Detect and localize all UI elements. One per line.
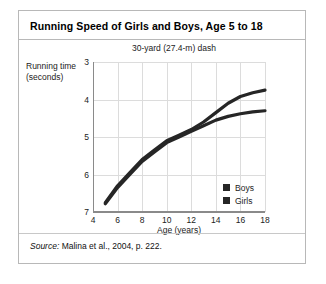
x-tick-label: 4: [91, 215, 96, 225]
legend-swatch-boys: [223, 184, 230, 191]
source-label: Source:: [30, 241, 59, 251]
source-divider: [19, 233, 305, 234]
legend-item-girls: Girls: [223, 194, 254, 207]
legend-label-boys: Boys: [235, 183, 254, 193]
x-tick-label: 12: [187, 215, 196, 225]
y-tick-label: 3: [84, 57, 89, 67]
x-tick-label: 10: [162, 215, 171, 225]
y-tick-label: 7: [84, 207, 89, 217]
y-tick-label: 5: [84, 132, 89, 142]
chart-legend: Boys Girls: [223, 181, 254, 207]
gridline-horizontal: [93, 212, 265, 213]
source-note: Source: Malina et al., 2004, p. 222.: [30, 241, 162, 251]
y-tick-label: 4: [84, 95, 89, 105]
y-axis-label-line2: (seconds): [26, 72, 63, 82]
legend-item-boys: Boys: [223, 181, 254, 194]
gridline-vertical: [265, 62, 266, 212]
chart-subtitle: 30-yard (27.4-m) dash: [19, 43, 305, 53]
x-tick-label: 6: [115, 215, 120, 225]
x-tick-label: 14: [211, 215, 220, 225]
x-tick-label: 18: [260, 215, 269, 225]
y-axis-label-line1: Running time: [26, 61, 76, 71]
source-citation: Malina et al., 2004, p. 222.: [59, 241, 162, 251]
figure-card: Running Speed of Girls and Boys, Age 5 t…: [18, 10, 306, 264]
legend-swatch-girls: [223, 197, 230, 204]
legend-label-girls: Girls: [235, 196, 252, 206]
x-tick-label: 8: [140, 215, 145, 225]
title-divider: [19, 39, 305, 40]
x-tick-label: 16: [236, 215, 245, 225]
y-tick-label: 6: [84, 170, 89, 180]
page-title: Running Speed of Girls and Boys, Age 5 t…: [30, 20, 263, 32]
